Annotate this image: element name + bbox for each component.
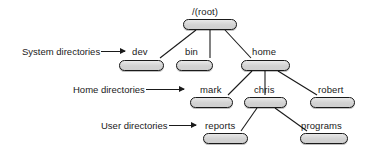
node-label-bin: bin (185, 47, 198, 57)
arrow-right-icon (146, 89, 184, 90)
annotation-label-home-directories: Home directories (73, 84, 145, 95)
node-label-root: /(root) (192, 7, 218, 17)
node-label-programs: programs (301, 121, 342, 131)
edge-chris-to-reports (241, 108, 257, 131)
directory-tree-diagram: /(root)devbinhomemarkchrisrobertreportsp… (0, 0, 369, 159)
annotation-label-system-directories: System directories (22, 46, 100, 57)
node-root[interactable] (183, 19, 237, 30)
node-bin[interactable] (176, 60, 213, 71)
edge-root-to-home (225, 30, 251, 58)
node-label-mark: mark (200, 85, 222, 95)
node-mark[interactable] (190, 97, 233, 108)
node-label-chris: chris (254, 85, 275, 95)
node-dev[interactable] (119, 60, 164, 71)
annotation-home-directories: Home directories (73, 84, 184, 95)
node-label-dev: dev (132, 47, 148, 57)
node-label-reports: reports (205, 121, 235, 131)
node-chris[interactable] (244, 97, 287, 108)
edge-home-to-mark (228, 71, 252, 95)
node-reports[interactable] (203, 133, 248, 144)
node-label-robert: robert (318, 85, 343, 95)
edge-home-to-robert (278, 71, 317, 95)
node-label-home: home (252, 47, 276, 57)
arrow-right-icon (101, 51, 125, 52)
node-home[interactable] (241, 60, 290, 71)
annotation-system-directories: System directories (22, 46, 125, 57)
annotation-label-user-directories: User directories (101, 120, 168, 131)
annotation-user-directories: User directories (101, 120, 196, 131)
node-programs[interactable] (300, 133, 348, 144)
node-robert[interactable] (310, 97, 355, 108)
arrow-right-icon (169, 125, 196, 126)
